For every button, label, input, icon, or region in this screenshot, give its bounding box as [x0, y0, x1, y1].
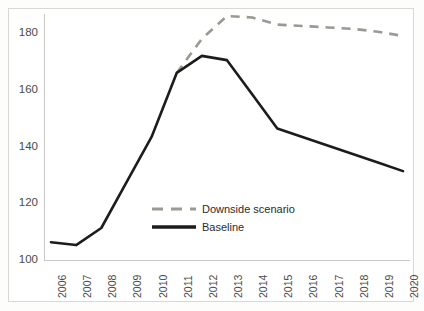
legend-item-baseline: Baseline [152, 218, 295, 236]
legend-swatch-dashed-icon [152, 204, 196, 214]
chart-figure: 100120140160180 200620072008200920102011… [0, 0, 424, 311]
legend-label-baseline: Baseline [202, 221, 244, 233]
chart-plot [0, 0, 424, 311]
series-line-downside-scenario [177, 16, 403, 73]
chart-legend: Downside scenario Baseline [152, 200, 295, 236]
legend-label-downside-scenario: Downside scenario [202, 203, 295, 215]
legend-item-downside-scenario: Downside scenario [152, 200, 295, 218]
legend-swatch-solid-icon [152, 222, 196, 232]
